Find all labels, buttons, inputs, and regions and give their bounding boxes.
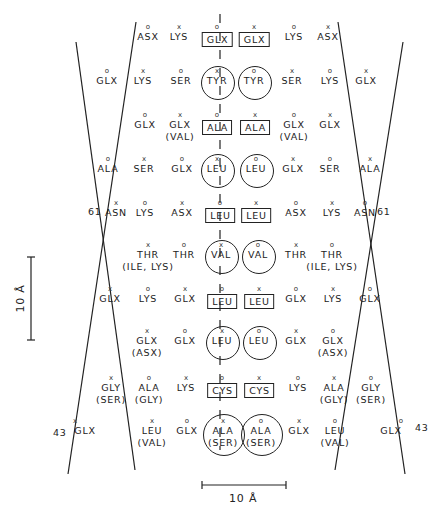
residue-name: LEU	[137, 426, 166, 436]
circle-marker-icon: o	[289, 375, 307, 382]
residue-glx: oGLX(ASX)	[318, 328, 348, 357]
residue-glx: oGLX	[134, 112, 156, 130]
horizontal-scale-label: 10 Å	[229, 492, 257, 505]
residue-name: GLX	[279, 120, 308, 130]
cross-marker-icon: x	[317, 24, 338, 31]
residue-name: GLX	[176, 426, 198, 436]
circle-marker-icon: o	[205, 200, 235, 207]
residue-alternate: (VAL)	[279, 132, 308, 142]
residue-name: GLX	[171, 164, 193, 174]
vertical-scale-label: 10 Å	[14, 284, 27, 312]
residue-glx: xGLX	[239, 24, 270, 47]
cross-marker-icon: x	[288, 418, 310, 425]
residue-name: GLY	[356, 383, 386, 393]
residue-name: SER	[319, 164, 340, 174]
position-label-43-right: 43	[415, 422, 429, 433]
residue-glx: xGLX	[282, 156, 304, 174]
cross-marker-icon: x	[285, 242, 307, 249]
circle-marker-icon: o	[321, 68, 339, 75]
residue-alternate: (SER)	[356, 395, 386, 405]
residue-name: ALA	[98, 164, 119, 174]
residue-alternate: (GLY)	[135, 395, 164, 405]
residue-glx: oGLX	[359, 286, 381, 304]
circle-marker-icon: o	[285, 286, 307, 293]
residue-name: GLX	[319, 120, 341, 130]
cross-marker-icon: x	[355, 68, 377, 75]
residue-ala: oALA	[98, 156, 119, 174]
cross-marker-icon: x	[360, 156, 381, 163]
residue-glx: oGLX	[174, 328, 196, 346]
circle-marker-icon: o	[98, 156, 119, 163]
cross-marker-icon: x	[132, 328, 162, 335]
circle-marker-icon: o	[134, 112, 156, 119]
residue-name: GLX	[174, 294, 196, 304]
residue-lys: xLYS	[323, 200, 341, 218]
cross-marker-icon: x	[239, 24, 270, 31]
residue-circle-frame	[203, 414, 245, 456]
residue-name: LYS	[321, 76, 339, 86]
residue-name: LYS	[134, 76, 152, 86]
residue-glx: oGLX	[380, 418, 402, 436]
residue-gly: xGLY(SER)	[96, 375, 126, 404]
residue-glx: oGLX	[202, 24, 233, 47]
residue-lys: xLYS	[324, 286, 342, 304]
circle-marker-icon: o	[207, 286, 237, 293]
cross-marker-icon: x	[282, 156, 304, 163]
residue-name: GLX	[74, 426, 96, 436]
residue-glx: oGLX(VAL)	[279, 112, 308, 141]
residue-circle-frame	[240, 154, 274, 188]
residue-name: LYS	[170, 32, 188, 42]
residue-asx: xASX	[171, 200, 192, 218]
residue-ser: oSER	[170, 68, 191, 86]
residue-glx: xGLX	[99, 286, 121, 304]
circle-marker-icon: o	[390, 418, 412, 425]
residue-thr: xTHR	[285, 242, 307, 260]
residue-circle-frame	[241, 414, 283, 456]
residue-ser: xSER	[281, 68, 302, 86]
circle-marker-icon: o	[356, 375, 386, 382]
circle-marker-icon: o	[96, 68, 118, 75]
residue-alternate: (VAL)	[137, 438, 166, 448]
residue-name: ASN	[354, 208, 376, 218]
residue-ala: xALA(GLY)	[320, 375, 349, 404]
residue-name: ASX	[137, 32, 158, 42]
circle-marker-icon: o	[136, 200, 154, 207]
residue-name: LYS	[177, 383, 195, 393]
residue-glx: xGLX	[319, 112, 341, 130]
residue-lys: xLYS	[170, 24, 188, 42]
circle-marker-icon: o	[202, 112, 232, 119]
residue-name: ALA	[202, 120, 232, 135]
cross-marker-icon: x	[174, 286, 196, 293]
residue-name: LEU	[244, 294, 274, 309]
residue-name: THR	[122, 250, 173, 260]
residue-name: GLX	[285, 294, 307, 304]
residue-thr: oTHR(ILE, LYS)	[306, 242, 357, 271]
residue-name: ASX	[317, 32, 338, 42]
residue-circle-frame	[201, 154, 235, 188]
cross-marker-icon: x	[165, 112, 194, 119]
circle-marker-icon: o	[285, 24, 303, 31]
circle-marker-icon: o	[139, 286, 157, 293]
residue-glx: xGLX	[174, 286, 196, 304]
residue-leu: xLEU(VAL)	[137, 418, 166, 447]
residue-thr: xTHR(ILE, LYS)	[122, 242, 173, 271]
residue-circle-frame	[242, 240, 276, 274]
position-label-43-left: 43	[53, 427, 67, 438]
residue-ala: xALA	[240, 112, 270, 135]
circle-marker-icon: o	[207, 375, 237, 382]
residue-glx: oGLX	[285, 286, 307, 304]
residue-name: LEU	[241, 208, 271, 223]
residue-name: GLY	[96, 383, 126, 393]
residue-name: LEU	[205, 208, 235, 223]
cross-marker-icon: x	[323, 200, 341, 207]
cross-marker-icon: x	[241, 200, 271, 207]
residue-glx: xGLX(VAL)	[165, 112, 194, 141]
circle-marker-icon: o	[202, 24, 233, 31]
residue-lys: xLYS	[134, 68, 152, 86]
circle-marker-icon: o	[320, 418, 349, 425]
cross-marker-icon: x	[133, 156, 154, 163]
residue-name: ALA	[135, 383, 164, 393]
residue-alternate: (ILE, LYS)	[122, 262, 173, 272]
residue-lys: oLYS	[139, 286, 157, 304]
cross-marker-icon: x	[240, 112, 270, 119]
